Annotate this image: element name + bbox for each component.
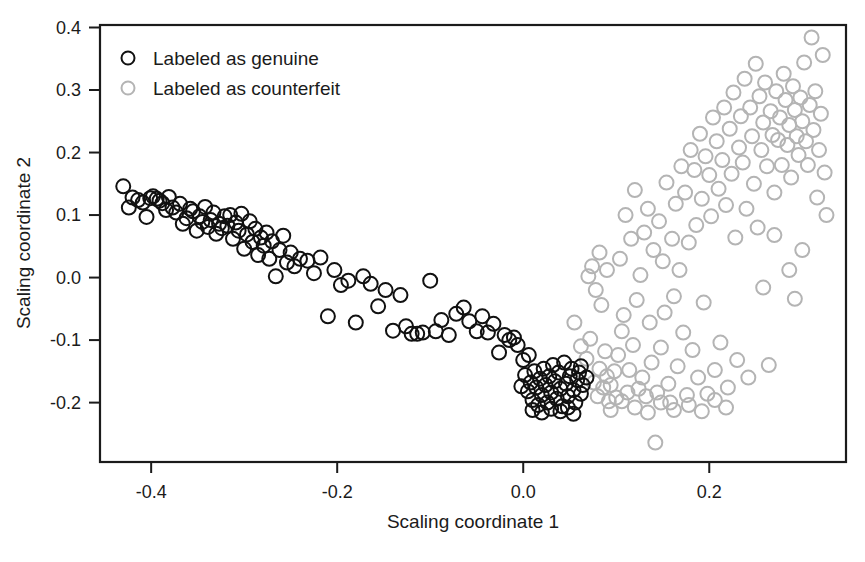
y-tick-label: 0.1 <box>56 205 81 225</box>
y-tick-label: -0.1 <box>50 330 81 350</box>
y-axis-label: Scaling coordinate 2 <box>13 157 34 329</box>
plot-canvas: -0.4-0.20.00.2 -0.2-0.10.00.10.20.30.4 S… <box>0 0 865 562</box>
legend-label-counterfeit: Labeled as counterfeit <box>153 78 341 99</box>
x-tick-label: -0.4 <box>136 482 167 502</box>
y-tick-label: -0.2 <box>50 393 81 413</box>
y-axis-ticks: -0.2-0.10.00.10.20.30.4 <box>50 18 100 413</box>
x-axis-ticks: -0.4-0.20.00.2 <box>136 462 722 502</box>
y-tick-label: 0.2 <box>56 143 81 163</box>
scatter-plot-figure: -0.4-0.20.00.2 -0.2-0.10.00.10.20.30.4 S… <box>0 0 865 562</box>
x-tick-label: -0.2 <box>322 482 353 502</box>
x-tick-label: 0.2 <box>697 482 722 502</box>
y-tick-label: 0.4 <box>56 18 81 38</box>
y-tick-label: 0.3 <box>56 80 81 100</box>
legend-label-genuine: Labeled as genuine <box>153 48 319 69</box>
y-tick-label: 0.0 <box>56 268 81 288</box>
x-axis-label: Scaling coordinate 1 <box>387 511 559 532</box>
x-tick-label: 0.0 <box>511 482 536 502</box>
